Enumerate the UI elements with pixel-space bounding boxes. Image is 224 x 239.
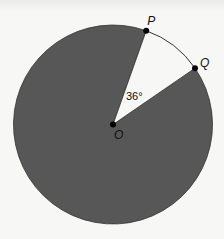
circle-diagram: O P Q 36° [0,0,224,239]
label-q: Q [200,56,209,70]
angle-label: 36° [126,90,143,102]
point-p [143,28,149,34]
label-o: O [114,128,123,142]
point-q [192,65,198,71]
label-p: P [147,14,155,28]
